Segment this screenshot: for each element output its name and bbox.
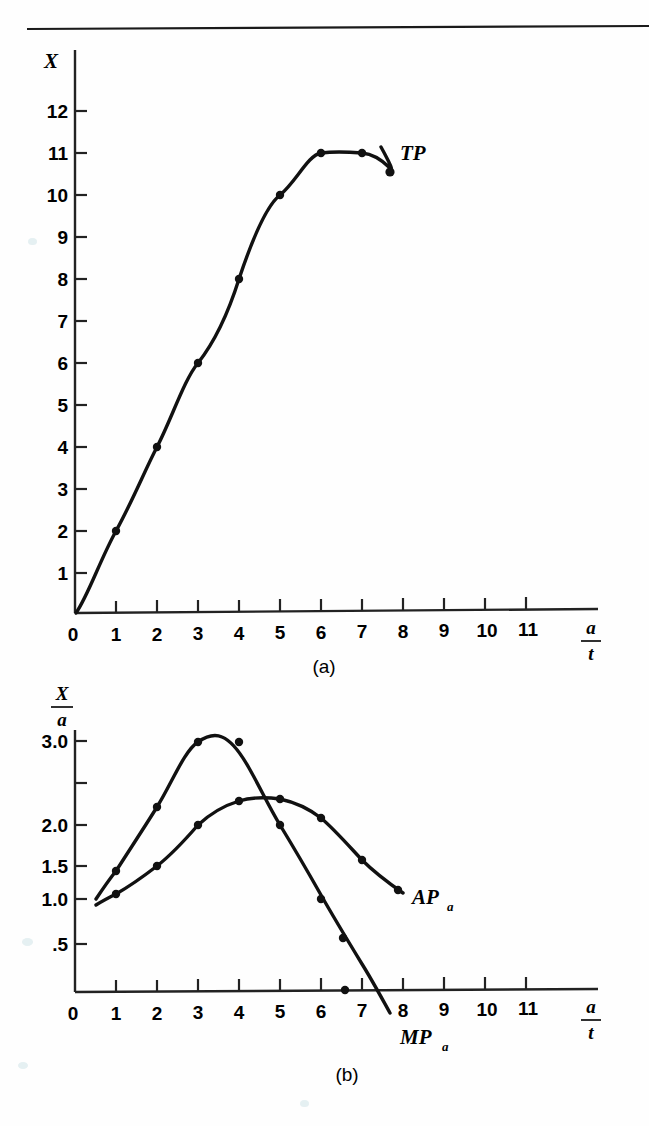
total-product-label: TP: [400, 141, 426, 165]
panel-b: 3.0 2.0 1.5 1.0 .5 0 1 2 3 4 5 6 7 8 9 1…: [42, 683, 601, 1085]
panel-b-y-tick-labels: 3.0 2.0 1.5 1.0 .5: [42, 731, 69, 955]
panel-b-y-axis-label: X a: [51, 683, 73, 730]
panel-b-x-tick-label: 6: [316, 1001, 327, 1022]
panel-b-x-tick-label: 8: [398, 1000, 409, 1021]
data-point: [317, 814, 325, 822]
svg-text:AP: AP: [410, 885, 439, 909]
data-point: [194, 821, 202, 829]
average-product-curve: [96, 798, 403, 905]
panel-b-x-tick-label: 4: [234, 1002, 245, 1023]
data-point: [194, 359, 202, 367]
data-point: [153, 803, 161, 811]
panel-a-x-tick-label: 3: [193, 623, 204, 644]
panel-a-x-axis-label-num: a: [586, 617, 596, 638]
total-product-data-points: [112, 149, 395, 535]
economics-production-figure: 12 11 10 9 8 7 6 5 4 3 2 1 0 1 2 3 4 5 6…: [0, 0, 649, 1126]
panel-a-y-tick-label: 9: [57, 227, 68, 248]
panel-a-caption: (a): [312, 656, 335, 677]
total-product-curve: [76, 150, 392, 612]
panel-a-y-tick-label: 12: [47, 101, 68, 122]
panel-a-y-tick-label: 3: [57, 479, 68, 500]
data-point: [276, 795, 284, 803]
svg-text:MP: MP: [399, 1025, 432, 1049]
panel-b-x-tick-label: 0: [68, 1003, 79, 1024]
panel-a-y-axis-label: X: [43, 49, 59, 73]
panel-a-x-axis-label-den: t: [588, 643, 594, 664]
panel-a-y-tick-labels: 12 11 10 9 8 7 6 5 4 3 2 1: [47, 101, 69, 584]
data-point: [112, 890, 120, 898]
panel-b-y-ticks: [75, 741, 87, 944]
panel-a-x-tick-label: 9: [439, 620, 450, 641]
panel-a-y-tick-label: 1: [57, 563, 68, 584]
panel-b-y-tick-label: 2.0: [42, 815, 68, 836]
panel-a-y-tick-label: 5: [57, 395, 68, 416]
panel-b-x-axis: [75, 989, 598, 992]
panel-b-x-tick-label: 7: [357, 1000, 368, 1021]
panel-a-x-axis: [75, 609, 598, 613]
panel-b-x-tick-label: 5: [275, 1001, 286, 1022]
panel-a-x-tick-label: 0: [68, 624, 79, 645]
data-point: [235, 797, 243, 805]
panel-a-x-tick-label: 10: [476, 620, 497, 641]
data-point: [317, 149, 325, 157]
average-product-label: AP a: [410, 885, 454, 914]
marginal-product-data-points: [112, 738, 349, 994]
data-point-endpoint: [385, 167, 394, 176]
svg-text:a: a: [442, 1039, 449, 1054]
panel-b-y-tick-label: .5: [52, 934, 68, 955]
data-point: [358, 149, 366, 157]
panel-a-x-tick-label: 8: [398, 621, 409, 642]
panel-a-x-tick-label: 2: [152, 624, 163, 645]
panel-a: 12 11 10 9 8 7 6 5 4 3 2 1 0 1 2 3 4 5 6…: [43, 49, 601, 677]
data-point: [276, 191, 284, 199]
panel-b-x-tick-label: 1: [111, 1003, 122, 1024]
data-point: [339, 934, 347, 942]
data-point: [394, 886, 402, 894]
panel-b-y-axis-label-den: a: [57, 709, 67, 730]
panel-a-y-tick-label: 7: [57, 311, 68, 332]
total-product-curve-smooth: [76, 150, 390, 613]
panel-a-x-tick-label: 6: [316, 622, 327, 643]
panel-a-x-tick-label: 7: [357, 621, 368, 642]
panel-a-x-tick-label: 11: [518, 619, 539, 640]
panel-b-x-axis-label-den: t: [588, 1022, 594, 1043]
data-point: [112, 867, 120, 875]
data-point: [276, 821, 284, 829]
data-point: [235, 738, 243, 746]
panel-a-y-tick-label: 6: [57, 353, 68, 374]
total-product-curve-path: [76, 147, 391, 613]
data-point: [153, 443, 161, 451]
data-point: [112, 527, 120, 535]
panel-b-y-tick-label: 3.0: [42, 731, 68, 752]
data-point: [317, 895, 325, 903]
panel-a-x-axis-label: a t: [581, 617, 601, 664]
panel-a-y-tick-label: 2: [57, 521, 68, 542]
panel-a-x-tick-label: 1: [111, 624, 122, 645]
panel-b-caption: (b): [335, 1064, 358, 1085]
panel-a-x-tick-label: 5: [275, 622, 286, 643]
panel-b-y-tick-label: 1.5: [42, 856, 69, 877]
panel-b-x-tick-labels: 0 1 2 3 4 5 6 7 8 9 10 11: [68, 998, 539, 1024]
panel-b-x-axis-label: a t: [581, 996, 601, 1043]
data-point: [358, 856, 366, 864]
panel-b-x-tick-label: 9: [439, 999, 450, 1020]
panel-b-x-tick-label: 10: [476, 999, 497, 1020]
panel-b-x-axis-label-num: a: [586, 996, 596, 1017]
panel-a-y-tick-label: 4: [57, 437, 68, 458]
panel-a-y-tick-label: 8: [57, 269, 68, 290]
panel-a-y-ticks: [75, 111, 87, 573]
panel-a-y-tick-label: 11: [48, 143, 69, 164]
panel-b-x-tick-label: 11: [518, 998, 539, 1019]
data-point: [153, 862, 161, 870]
panel-a-x-tick-labels: 0 1 2 3 4 5 6 7 8 9 10 11: [68, 619, 539, 645]
data-point-zero-crossing: [341, 986, 349, 994]
data-point: [194, 738, 202, 746]
svg-text:a: a: [447, 899, 454, 914]
panel-a-y-tick-label: 10: [47, 185, 68, 206]
top-rule: [27, 26, 649, 29]
panel-b-x-tick-label: 3: [193, 1002, 204, 1023]
panel-b-y-tick-label: 1.0: [42, 889, 68, 910]
marginal-product-label: MP a: [399, 1025, 449, 1054]
panel-a-x-tick-label: 4: [234, 623, 245, 644]
data-point: [235, 275, 243, 283]
